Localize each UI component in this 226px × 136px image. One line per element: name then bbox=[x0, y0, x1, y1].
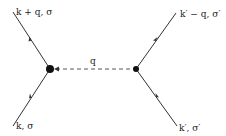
boson-propagator bbox=[54, 67, 136, 72]
feynman-diagram: k + q, σ k′ − q, σ′ k, σ k′, σ′ q bbox=[0, 0, 226, 136]
label-top-left: k + q, σ bbox=[16, 7, 52, 17]
fermion-line-bottom-right bbox=[136, 69, 177, 126]
fermion-line-bottom-left bbox=[13, 69, 50, 126]
arrow-icon bbox=[156, 93, 160, 98]
vertex-right bbox=[133, 66, 139, 72]
arrow-icon bbox=[54, 67, 59, 72]
vertex-left bbox=[46, 65, 54, 73]
label-top-right: k′ − q, σ′ bbox=[180, 9, 220, 19]
fermion-line-top-right bbox=[136, 13, 176, 69]
fermion-line-top-left bbox=[13, 12, 50, 69]
label-bottom-left: k, σ bbox=[16, 121, 33, 131]
label-propagator: q bbox=[90, 56, 96, 66]
label-bottom-right: k′, σ′ bbox=[179, 123, 200, 133]
